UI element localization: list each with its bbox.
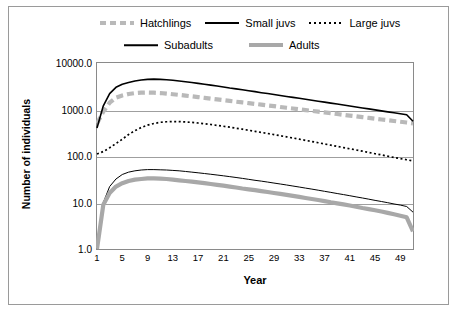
legend-item-subadults: Subadults <box>124 39 213 51</box>
legend-item-large-juvs: Large juvs <box>309 17 400 29</box>
legend-label-small-juvs: Small juvs <box>245 17 295 29</box>
series-line-small-juvs <box>97 79 413 128</box>
legend-row-1: Hatchlings Small juvs Large juvs <box>100 12 400 34</box>
legend-swatch-subadults-icon <box>124 39 158 51</box>
legend-row-2: Subadults Adults <box>100 34 400 56</box>
series-lines <box>96 62 414 250</box>
x-tick-label: 37 <box>319 252 330 263</box>
plot-area: 10000.01000.0100.010.01.0 15913172125293… <box>96 62 414 250</box>
x-tick-label: 5 <box>120 252 125 263</box>
legend-label-subadults: Subadults <box>164 39 213 51</box>
legend-item-hatchlings: Hatchlings <box>100 17 191 29</box>
y-tick-label: 1000.0 <box>32 104 92 115</box>
chart-legend: Hatchlings Small juvs Large juvs Subadul… <box>100 12 400 56</box>
x-tick-label: 33 <box>294 252 305 263</box>
legend-item-small-juvs: Small juvs <box>205 17 295 29</box>
y-axis-label-text: Number of individuals <box>20 60 32 248</box>
x-tick-label: 29 <box>269 252 280 263</box>
series-line-adults <box>97 178 413 249</box>
x-tick-label: 21 <box>218 252 229 263</box>
legend-label-hatchlings: Hatchlings <box>140 17 191 29</box>
x-tick-label: 25 <box>243 252 254 263</box>
series-line-large-juvs <box>97 122 413 161</box>
y-tick-label: 1.0 <box>32 244 92 255</box>
legend-swatch-large-juvs-icon <box>309 17 343 29</box>
y-tick-label: 100.0 <box>32 151 92 162</box>
legend-swatch-adults-icon <box>249 39 283 51</box>
x-tick-label: 9 <box>145 252 150 263</box>
x-tick-label: 49 <box>395 252 406 263</box>
x-tick-label: 17 <box>193 252 204 263</box>
x-tick-label: 1 <box>94 252 99 263</box>
x-axis-label: Year <box>96 274 414 286</box>
x-tick-label: 45 <box>370 252 381 263</box>
chart-figure: Hatchlings Small juvs Large juvs Subadul… <box>0 0 461 313</box>
legend-label-large-juvs: Large juvs <box>349 17 400 29</box>
x-tick-label: 13 <box>168 252 179 263</box>
legend-item-adults: Adults <box>249 39 320 51</box>
legend-swatch-hatchlings-icon <box>100 17 134 29</box>
legend-label-adults: Adults <box>289 39 320 51</box>
y-tick-label: 10.0 <box>32 197 92 208</box>
legend-swatch-small-juvs-icon <box>205 17 239 29</box>
y-tick-label: 10000.0 <box>32 58 92 69</box>
x-tick-label: 41 <box>345 252 356 263</box>
